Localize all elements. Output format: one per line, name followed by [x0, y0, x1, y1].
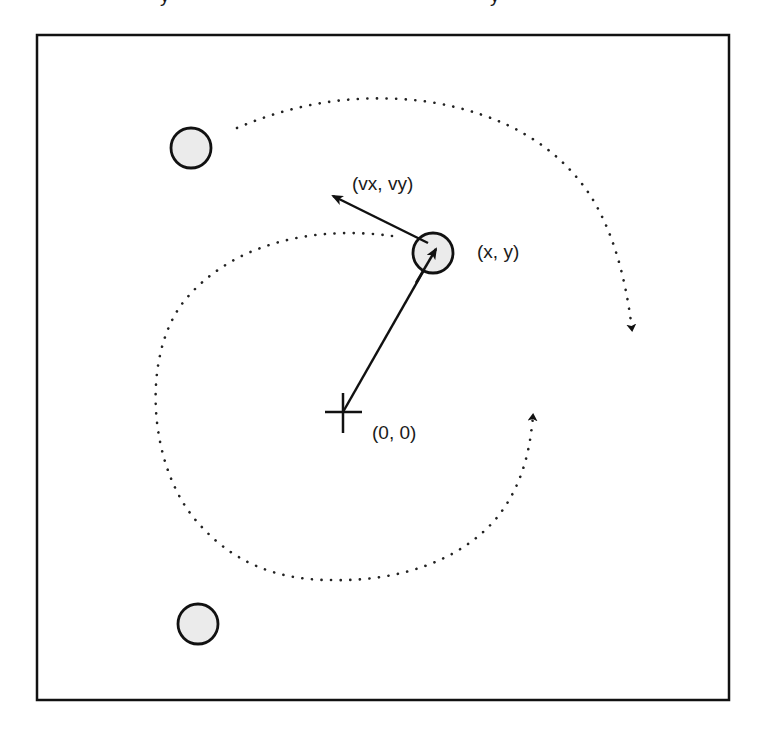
cropped-header-text: y	[160, 0, 170, 5]
outer-orbit-path	[237, 98, 632, 330]
frame-border	[37, 35, 729, 700]
position-label: (x, y)	[477, 242, 519, 261]
cropped-header-text: y	[490, 0, 500, 5]
diagram-canvas: y y (vx, vy) (x, y) (0, 0)	[0, 0, 764, 738]
particle-top-left	[171, 128, 211, 168]
origin-crosshair-icon	[325, 393, 362, 433]
velocity-vector-arrow	[333, 196, 428, 243]
orbit-diagram	[0, 0, 764, 738]
inner-orbit-path	[156, 233, 533, 580]
origin-label: (0, 0)	[372, 423, 416, 442]
particle-bottom-left	[178, 604, 218, 644]
velocity-label: (vx, vy)	[352, 174, 413, 193]
